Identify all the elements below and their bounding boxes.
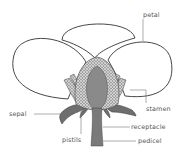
- pedicel-stem: [91, 108, 103, 146]
- label-pedicel: pedicel: [138, 137, 162, 145]
- label-sepal: sepal: [9, 110, 27, 118]
- flower-diagram: petal stamen sepal receptacle pistils pe…: [0, 0, 184, 158]
- label-petal: petal: [143, 11, 160, 19]
- label-pistils: pistils: [62, 136, 82, 144]
- label-receptacle: receptacle: [131, 123, 166, 131]
- label-stamen: stamen: [146, 105, 171, 113]
